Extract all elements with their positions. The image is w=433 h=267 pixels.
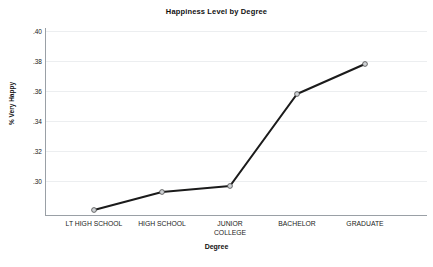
data-point-marker — [228, 184, 233, 189]
data-point-marker — [160, 190, 165, 195]
x-tick-line1: GRADUATE — [315, 219, 415, 228]
data-point-marker — [295, 92, 300, 97]
data-point-marker — [92, 208, 97, 213]
data-point-marker — [363, 62, 368, 67]
x-tick-line2: COLLEGE — [180, 228, 280, 237]
chart-container: Happiness Level by Degree .40 .38 .36 .3… — [0, 0, 433, 267]
x-tick-graduate: GRADUATE — [315, 219, 415, 228]
x-axis-title: Degree — [0, 243, 433, 250]
